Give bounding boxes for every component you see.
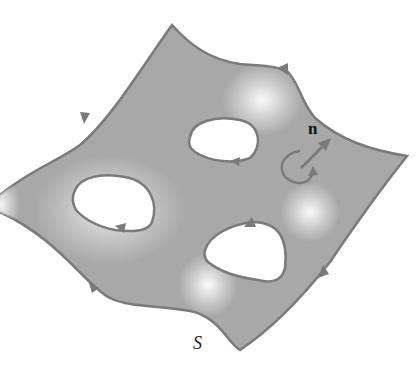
surface-body bbox=[0, 25, 407, 350]
oriented-surface-diagram bbox=[0, 0, 419, 376]
normal-vector-label: n bbox=[308, 119, 317, 139]
orientation-arrow-icon bbox=[80, 112, 90, 124]
surface-label: S bbox=[193, 333, 202, 354]
